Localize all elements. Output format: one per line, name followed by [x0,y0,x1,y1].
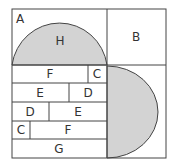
row4-right-label: F [65,123,72,137]
label-h: H [55,34,64,48]
row1-left-label: F [47,67,54,81]
row3-left-label: D [25,105,34,119]
semicircle-right [107,66,158,158]
row3-right-label: E [74,105,82,119]
row2-right-label: D [83,86,92,100]
label-a: A [16,12,25,26]
row4-left-label: C [17,123,25,137]
label-b: B [132,30,140,44]
row1-right-label: C [93,67,101,81]
row5-label: G [54,142,63,156]
tiling-diagram: A H B F C E D D E C F G [0,0,177,167]
row2-left-label: E [36,86,44,100]
